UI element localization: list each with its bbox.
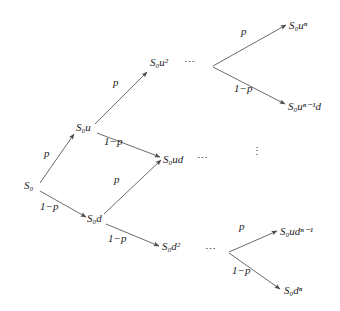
node-udn1: S₀udⁿ⁻¹ <box>280 226 313 237</box>
edge-down1-to-ud <box>104 160 161 214</box>
edge-up1-to-up2 <box>95 72 147 124</box>
prob-down1-ud: p <box>114 174 120 185</box>
node-ud: S₀ud <box>163 154 183 165</box>
ellipsis-middle-icon: ⋯ <box>197 153 209 164</box>
node-down2: S₀d² <box>162 241 180 252</box>
prob-root-down: 1−p <box>40 201 58 212</box>
node-un: S₀uⁿ <box>289 20 307 31</box>
prob-vertex-top-un1d: 1−p <box>234 83 252 94</box>
node-un1d: S₀uⁿ⁻¹d <box>288 101 321 112</box>
node-dn: S₀dⁿ <box>284 285 302 296</box>
node-up2: S₀u² <box>150 57 168 68</box>
prob-vertex-top-un: p <box>241 26 247 37</box>
ellipsis-vertical-icon: ⋮ <box>252 146 262 156</box>
prob-up1-up2: p <box>113 77 119 88</box>
ellipsis-bottom-icon: ⋯ <box>205 244 217 255</box>
prob-root-up: p <box>44 148 50 159</box>
prob-vertex-bottom-udn1: p <box>239 221 245 232</box>
prob-vertex-bottom-dn: 1−p <box>232 265 250 276</box>
edge-vertex-top-to-un <box>213 25 286 66</box>
edge-vertex-bottom-to-udn1 <box>229 231 277 252</box>
node-root: S₀ <box>24 180 33 191</box>
node-down1: S₀d <box>87 213 102 224</box>
prob-up1-ud: 1−p <box>104 136 122 147</box>
binomial-tree-figure: S₀ S₀u S₀d S₀u² S₀ud S₀d² S₀uⁿ S₀uⁿ⁻¹d S… <box>0 0 340 311</box>
ellipsis-top-icon: ⋯ <box>184 57 196 68</box>
node-up1: S₀u <box>76 122 91 133</box>
prob-down1-down2: 1−p <box>108 233 126 244</box>
